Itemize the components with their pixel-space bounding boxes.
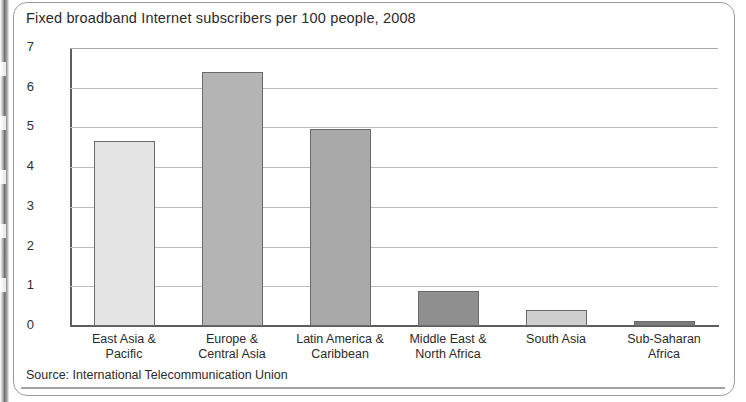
footer-rule <box>21 387 725 389</box>
x-tick-label-europe-central-asia: Europe & Central Asia <box>178 332 286 362</box>
x-tick-label-south-asia: South Asia <box>502 332 610 347</box>
y-tick-5: 5 <box>4 118 34 133</box>
y-tick-2: 2 <box>4 238 34 253</box>
scanned-page: Fixed broadband Internet subscribers per… <box>0 0 746 402</box>
bar-europe-central-asia[interactable] <box>202 72 263 326</box>
y-tick-0: 0 <box>4 317 34 332</box>
x-tick-label-middle-east-north-africa: Middle East & North Africa <box>394 332 502 362</box>
y-tick-3: 3 <box>4 198 34 213</box>
source-note: Source: International Telecommunication … <box>26 368 288 382</box>
bar-middle-east-north-africa[interactable] <box>418 291 479 326</box>
x-tick-label-east-asia-pacific: East Asia & Pacific <box>70 332 178 362</box>
y-tick-7: 7 <box>4 39 34 54</box>
bar-latin-america-caribbean[interactable] <box>310 129 371 326</box>
bars-layer <box>70 48 718 326</box>
y-tick-1: 1 <box>4 277 34 292</box>
bar-sub-saharan-africa[interactable] <box>634 321 695 326</box>
chart-title: Fixed broadband Internet subscribers per… <box>26 10 416 26</box>
bar-south-asia[interactable] <box>526 310 587 326</box>
chart-plot: 7 6 5 4 3 2 1 0 East Asia & Pacific Euro… <box>0 40 746 340</box>
x-tick-label-sub-saharan-africa: Sub-Saharan Africa <box>610 332 718 362</box>
bar-east-asia-pacific[interactable] <box>94 141 155 326</box>
y-tick-4: 4 <box>4 158 34 173</box>
y-tick-6: 6 <box>4 79 34 94</box>
x-tick-label-latin-america-caribbean: Latin America & Caribbean <box>286 332 394 362</box>
